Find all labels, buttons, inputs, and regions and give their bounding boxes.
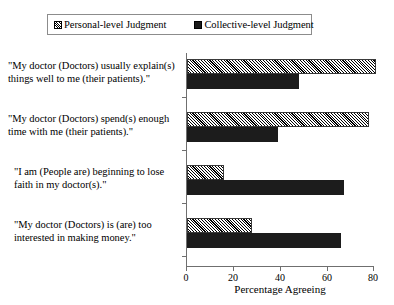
bar-personal-group-1 <box>187 59 376 74</box>
x-axis-tick-label-40: 40 <box>275 272 285 283</box>
bar-personal-group-2 <box>187 112 369 127</box>
x-axis-tick-label-20: 20 <box>228 272 238 283</box>
x-axis-tick-label-0: 0 <box>184 272 189 283</box>
category-label-1: "My doctor (Doctors) usually explain(s) … <box>8 60 182 85</box>
bar-personal-group-4 <box>187 218 252 233</box>
x-axis-tick-60 <box>327 267 328 271</box>
legend-entry-collective-level-judgment: Collective-level Judgment <box>194 19 313 30</box>
bar-collective-group-1 <box>187 74 299 89</box>
category-label-3: "I am (People are) beginning to lose fai… <box>14 166 182 191</box>
x-axis-title: Percentage Agreeing <box>186 283 374 295</box>
y-axis-tick-2 <box>182 150 186 151</box>
category-label-4: "My doctor (Doctors) is (are) too intere… <box>14 219 182 244</box>
x-axis-tick-0 <box>186 267 187 271</box>
x-axis-tick-80 <box>373 267 374 271</box>
x-axis-tick-40 <box>280 267 281 271</box>
bar-collective-group-4 <box>187 233 341 248</box>
x-axis-tick-20 <box>233 267 234 271</box>
y-axis-tick-3 <box>182 203 186 204</box>
legend-label-collective-level-judgment: Collective-level Judgment <box>204 19 313 30</box>
bar-personal-group-3 <box>187 165 224 180</box>
category-axis-labels: "My doctor (Doctors) usually explain(s) … <box>0 0 186 305</box>
y-axis-tick-1 <box>182 97 186 98</box>
y-axis-tick-4 <box>182 256 186 257</box>
solid-black-square-icon <box>194 21 202 29</box>
category-label-2: "My doctor (Doctors) spend(s) enough tim… <box>8 113 182 138</box>
bar-chart-plot-area: 0 20 40 60 80 <box>186 53 374 266</box>
x-axis-tick-label-60: 60 <box>322 272 332 283</box>
x-axis-tick-label-80: 80 <box>368 272 378 283</box>
bar-collective-group-3 <box>187 180 344 195</box>
bar-collective-group-2 <box>187 127 278 142</box>
